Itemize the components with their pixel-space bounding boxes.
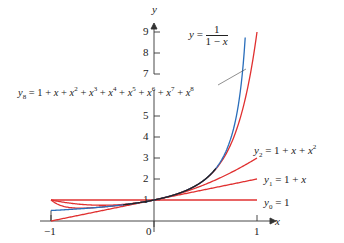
y-tick-4: 4 — [143, 131, 149, 142]
y-tick-3: 3 — [143, 152, 149, 163]
annotation-y2: y2 = 1 + x + x2 — [254, 144, 316, 159]
x-axis-label: x — [275, 216, 280, 227]
annotation-y1: y1 = 1 + x — [264, 174, 306, 188]
annotation-y8: y8 = 1 + x + x2 + x3 + x4 + x5 + x6 + x7… — [18, 86, 194, 101]
y-tick-2: 2 — [143, 173, 149, 184]
y-tick-9: 9 — [143, 26, 149, 37]
y-arrow-icon — [151, 23, 157, 29]
x-tick-1: 1 — [254, 226, 260, 237]
x-tick-neg1: −1 — [44, 226, 56, 237]
y-tick-1: 1 — [143, 194, 149, 205]
annotation-y0: y0 = 1 — [264, 197, 290, 211]
curve-geometric — [51, 38, 245, 211]
x-tick-0: 0 — [146, 226, 152, 237]
plot-area — [0, 0, 344, 243]
y-tick-5: 5 — [143, 110, 149, 121]
annotation-geometric: y = 1 1 − x — [189, 24, 228, 47]
y-tick-8: 8 — [143, 47, 149, 58]
y-tick-7: 7 — [143, 68, 149, 79]
y-axis-label: y — [152, 4, 157, 15]
